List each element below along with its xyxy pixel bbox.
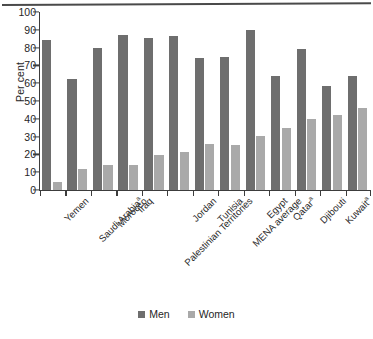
- bar-women: [205, 144, 214, 190]
- bar-men: [93, 48, 102, 190]
- bar-women: [282, 128, 291, 190]
- bar-men: [348, 76, 357, 190]
- bar-women: [103, 165, 112, 190]
- bar-group: [118, 12, 138, 190]
- bar-men: [118, 35, 127, 190]
- bar-women: [53, 182, 62, 190]
- bar-group: [271, 12, 291, 190]
- bar-men: [169, 36, 178, 190]
- bar-men: [297, 49, 306, 191]
- x-category-label-text: Yemen: [62, 195, 91, 224]
- x-category-label: Yemen: [63, 196, 91, 224]
- top-divider-rule: [2, 2, 371, 6]
- bar-group: [93, 12, 113, 190]
- bar-men: [220, 57, 229, 191]
- bar-series-container: [40, 12, 371, 190]
- legend-item: Women: [188, 308, 235, 320]
- bar-group: [322, 12, 342, 190]
- x-axis-category-labels: YemenSaudi ArabiaaMoroccoIraqPalestinian…: [0, 196, 373, 301]
- bar-men: [67, 79, 76, 190]
- bar-group: [195, 12, 215, 190]
- x-category-label: Jordan: [190, 196, 218, 224]
- legend-label: Men: [149, 308, 169, 320]
- legend-swatch-men: [138, 311, 145, 318]
- bar-men: [246, 30, 255, 190]
- figure-footnote: [4, 331, 364, 338]
- bar-group: [348, 12, 368, 190]
- bar-group: [246, 12, 266, 190]
- bar-women: [129, 165, 138, 190]
- legend-swatch-women: [188, 311, 195, 318]
- bar-women: [256, 136, 265, 190]
- chart-legend: MenWomen: [0, 308, 373, 320]
- x-category-label-text: Djibouti: [317, 195, 347, 225]
- y-axis-tick-labels: 0102030405060708090100: [6, 12, 36, 190]
- bar-women: [231, 145, 240, 190]
- bar-men: [195, 58, 204, 190]
- bar-group: [42, 12, 62, 190]
- legend-item: Men: [138, 308, 169, 320]
- bar-men: [42, 40, 51, 190]
- bar-group: [297, 12, 317, 190]
- plot-area: Per cent 0102030405060708090100: [0, 12, 373, 202]
- x-category-label: Palestinian Territories: [183, 196, 255, 268]
- legend-label: Women: [199, 308, 235, 320]
- x-category-label-text: Palestinian Territories: [182, 195, 255, 268]
- bar-women: [78, 169, 87, 190]
- x-category-label: Djibouti: [318, 196, 348, 226]
- bar-women: [358, 108, 367, 190]
- bar-men: [144, 38, 153, 190]
- bar-group: [169, 12, 189, 190]
- x-category-label: Kuwaita: [344, 196, 373, 226]
- bar-women: [333, 115, 342, 190]
- bar-women: [180, 152, 189, 190]
- bar-men: [271, 76, 280, 190]
- bar-group: [144, 12, 164, 190]
- bar-women: [154, 155, 163, 190]
- bar-group: [67, 12, 87, 190]
- x-category-label-text: Jordan: [189, 195, 218, 224]
- bar-women: [307, 119, 316, 190]
- chart-figure: Per cent 0102030405060708090100 YemenSau…: [0, 0, 373, 339]
- bar-group: [220, 12, 240, 190]
- bar-men: [322, 86, 331, 190]
